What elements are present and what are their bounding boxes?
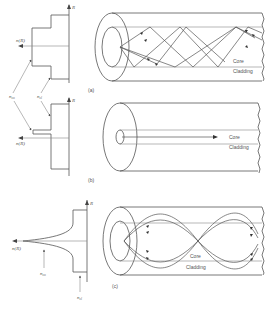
core-label-b: Core (229, 134, 240, 140)
n-cl-label: ncl (37, 94, 42, 100)
index-label-a: n(R) (16, 38, 25, 43)
fiber-c: Core Cladding (c) (103, 207, 264, 289)
cladding-label-a: Cladding (233, 68, 253, 74)
n-cl-label-c: ncl (77, 295, 82, 301)
index-pointers: nco ncl (9, 60, 50, 130)
r-axis-arrow-icon (67, 97, 71, 102)
n-co-label: nco (9, 94, 15, 100)
r-axis-arrow-icon (67, 4, 71, 9)
caption-c: (c) (112, 283, 118, 289)
r-axis-label-c: R (89, 201, 93, 206)
r-axis-arrow-icon (85, 200, 89, 205)
cladding-label-c: Cladding (186, 264, 206, 270)
fiber-a: Core Cladding (a) (88, 13, 264, 93)
r-axis-label-b: R (71, 98, 75, 103)
caption-b: (b) (88, 177, 94, 183)
index-label-b: n(R) (16, 141, 25, 146)
fiber-modes-diagram: R n(R) nco ncl R n(R) R n(R) nco ncl (0, 0, 275, 309)
caption-a: (a) (88, 87, 94, 93)
index-label-c: n(R) (12, 246, 21, 251)
n-co-label-c: nco (40, 271, 46, 277)
core-label-a: Core (233, 58, 244, 64)
profile-c: R n(R) nco ncl (12, 200, 93, 301)
cladding-label-b: Cladding (229, 144, 249, 150)
core-label-c: Core (190, 253, 201, 259)
r-axis-label-a: R (71, 5, 75, 10)
fiber-b: Core Cladding (b) (88, 103, 260, 183)
